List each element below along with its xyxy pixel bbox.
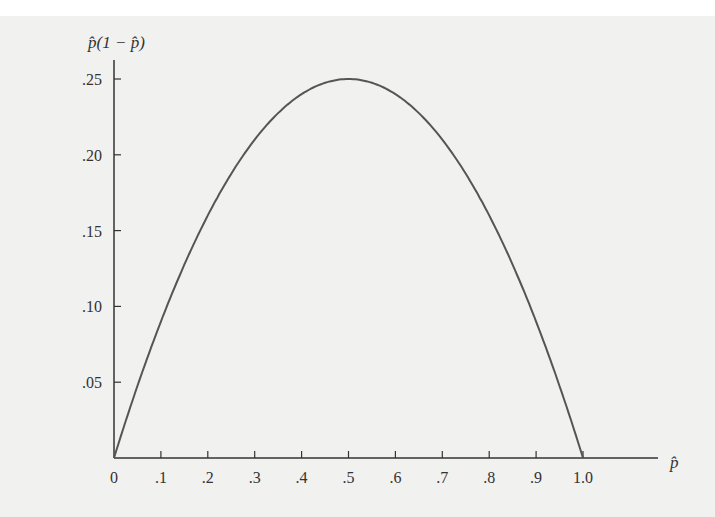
y-tick-label: .25 <box>82 71 102 88</box>
x-tick-label: .6 <box>389 469 401 486</box>
x-tick-label: 0 <box>110 469 118 486</box>
chart: .05.10.15.20.25 0.1.2.3.4.5.6.7.8.91.0 p… <box>0 0 715 517</box>
x-ticks: 0.1.2.3.4.5.6.7.8.91.0 <box>110 451 593 486</box>
curve-line <box>114 79 583 458</box>
y-tick-label: .05 <box>82 374 102 391</box>
y-axis-title: p̂(1 − p̂) <box>87 33 145 52</box>
x-tick-label: .2 <box>202 469 214 486</box>
axes <box>114 60 658 458</box>
x-tick-label: .8 <box>483 469 495 486</box>
x-tick-label: .3 <box>249 469 261 486</box>
y-ticks: .05.10.15.20.25 <box>82 71 121 391</box>
y-tick-label: .15 <box>82 223 102 240</box>
x-tick-label: .5 <box>343 469 355 486</box>
x-tick-label: .7 <box>436 469 448 486</box>
x-tick-label: 1.0 <box>573 469 593 486</box>
x-tick-label: .1 <box>155 469 167 486</box>
y-tick-label: .10 <box>82 298 102 315</box>
y-tick-label: .20 <box>82 147 102 164</box>
x-tick-label: .9 <box>530 469 542 486</box>
x-tick-label: .4 <box>296 469 308 486</box>
x-axis-title: p̂ <box>669 453 679 472</box>
